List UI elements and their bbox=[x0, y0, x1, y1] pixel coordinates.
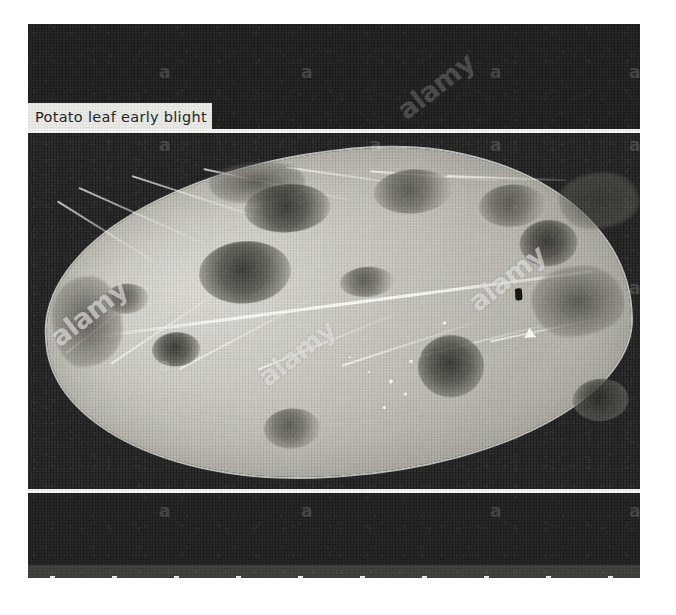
alamy-letter-watermark: a bbox=[629, 576, 640, 578]
alamy-letter-watermark: a bbox=[159, 137, 170, 154]
leaf-speck bbox=[409, 360, 412, 363]
alamy-letter-watermark: a bbox=[159, 64, 170, 81]
footer-tick bbox=[608, 576, 613, 578]
necrotic-blotch bbox=[557, 170, 640, 231]
stock-photo-page: Potato leaf early blight aaaaaaaaaaaaa bbox=[0, 0, 676, 615]
footer-tick bbox=[50, 576, 55, 578]
alamy-letter-watermark: a bbox=[629, 280, 640, 297]
leaf-speck bbox=[389, 379, 393, 383]
alamy-letter-watermark: a bbox=[301, 64, 312, 81]
leaf-speck bbox=[404, 392, 407, 395]
leaf-vein bbox=[78, 187, 207, 246]
alamy-letter-watermark: a bbox=[490, 576, 501, 578]
early-blight-lesions bbox=[35, 133, 618, 172]
alamy-letter-watermark: a bbox=[490, 137, 501, 154]
alamy-letter-watermark: a bbox=[159, 357, 170, 374]
alamy-letter-watermark: a bbox=[370, 137, 381, 154]
leaf-speck bbox=[383, 406, 386, 409]
footer-tick bbox=[112, 576, 117, 578]
leaf-speck bbox=[349, 356, 351, 358]
blight-lesion bbox=[571, 377, 630, 423]
leaf-veins bbox=[35, 133, 618, 172]
photo-frame: Potato leaf early blight aaaaaaaaaaaaa bbox=[28, 24, 640, 578]
leaf-speck bbox=[368, 371, 370, 373]
leaf-photograph bbox=[28, 133, 640, 489]
alamy-letter-watermark: a bbox=[490, 64, 501, 81]
footer-tick bbox=[546, 576, 551, 578]
footer-tick bbox=[174, 576, 179, 578]
footer-tick bbox=[484, 576, 489, 578]
caption-label: Potato leaf early blight bbox=[28, 103, 212, 131]
caption-text: Potato leaf early blight bbox=[35, 110, 207, 125]
alamy-letter-watermark: a bbox=[629, 64, 640, 81]
alamy-letter-watermark: a bbox=[159, 576, 170, 578]
alamy-letter-watermark: a bbox=[629, 503, 640, 520]
potato-leaf bbox=[35, 133, 640, 489]
alamy-letter-watermark: a bbox=[629, 137, 640, 154]
necrotic-blotch bbox=[529, 263, 626, 339]
alamy-letter-watermark: a bbox=[490, 503, 501, 520]
blight-lesion bbox=[263, 407, 322, 451]
leaf-vein bbox=[57, 200, 160, 265]
marker-triangle-icon bbox=[524, 327, 537, 338]
footer-tick bbox=[360, 576, 365, 578]
alamy-letter-watermark: a bbox=[301, 576, 312, 578]
blight-lesion bbox=[372, 167, 453, 216]
blight-lesion bbox=[339, 265, 395, 299]
top-dark-band bbox=[28, 24, 640, 103]
caption-strip: Potato leaf early blight bbox=[28, 103, 640, 131]
alamy-letter-watermark: a bbox=[159, 503, 170, 520]
footer-ticks bbox=[28, 576, 640, 578]
leaf-speck bbox=[443, 321, 446, 324]
footer-tick bbox=[236, 576, 241, 578]
alamy-letter-watermark: a bbox=[301, 503, 312, 520]
leaf-specks bbox=[35, 133, 618, 172]
footer-tick bbox=[422, 576, 427, 578]
leaf-necrotic-blotches bbox=[35, 133, 618, 172]
